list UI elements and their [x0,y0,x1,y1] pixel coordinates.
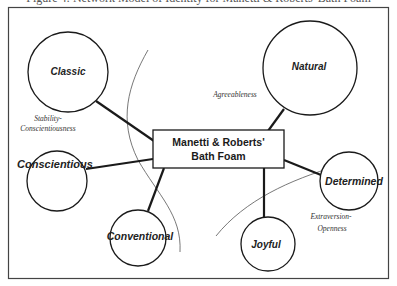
node-classic: Classic [28,32,108,112]
node-conventional: Conventional [107,210,175,266]
node-label-natural: Natural [292,61,327,72]
node-determined: Determined [320,152,383,210]
node-conscientious: Conscientious [17,151,93,211]
node-label-determined: Determined [325,175,383,187]
dimension-stability-line1: Stability- [34,114,62,123]
dimension-extraversion-line2: Openness [317,224,346,233]
connector-determined [284,160,321,175]
node-label-conscientious: Conscientious [17,158,93,170]
center-node-brand: Manetti & Roberts' Bath Foam [153,130,284,168]
node-natural: Natural [263,21,357,115]
network-diagram: Classic Natural Conscientious Convention… [0,0,397,286]
node-label-joyful: Joyful [251,239,281,250]
dimension-agreeableness: Agreeableness [212,90,257,99]
connector-conventional [148,168,164,211]
dimension-extraversion-line1: Extraversion- [309,212,352,221]
connector-classic [96,101,154,141]
center-node-line1: Manetti & Roberts' [172,136,264,148]
node-label-classic: Classic [50,66,85,77]
node-joyful: Joyful [241,217,295,271]
center-node-line2: Bath Foam [191,150,245,162]
node-label-conventional: Conventional [107,230,175,242]
dimension-stability-line2: Conscientiousness [20,124,75,133]
connector-natural [268,109,284,131]
